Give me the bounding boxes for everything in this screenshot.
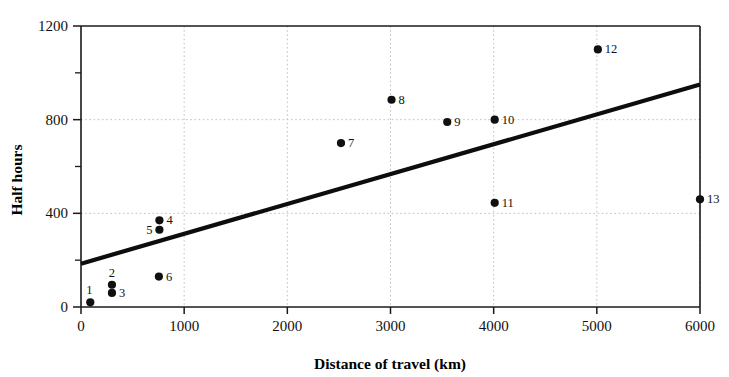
data-point: 5: [146, 223, 163, 237]
data-point-label: 5: [146, 223, 152, 237]
data-point-marker: [337, 139, 345, 147]
data-point: 12: [594, 42, 618, 56]
x-tick-label: 1000: [169, 318, 199, 334]
data-point-marker: [696, 195, 704, 203]
data-point-marker: [594, 45, 602, 53]
data-point-marker: [108, 289, 116, 297]
x-tick-label: 4000: [479, 318, 509, 334]
y-tick-label: 800: [46, 112, 69, 128]
data-point-marker: [86, 298, 94, 306]
y-axis-title: Half hours: [8, 144, 25, 215]
data-points: 12345678910111213: [86, 42, 719, 306]
data-point-marker: [443, 118, 451, 126]
data-point: 10: [491, 113, 515, 127]
x-tick-label: 2000: [272, 318, 302, 334]
y-tick-label: 400: [46, 205, 69, 221]
scatter-chart: 010002000300040005000600004008001200 123…: [0, 0, 729, 377]
data-point-label: 8: [399, 93, 405, 107]
data-point: 8: [387, 93, 404, 107]
data-point-marker: [491, 116, 499, 124]
y-tick-label: 1200: [38, 18, 68, 34]
data-point: 4: [155, 213, 173, 227]
data-point: 9: [443, 115, 460, 129]
data-point-label: 3: [119, 286, 125, 300]
x-tick-label: 6000: [685, 318, 715, 334]
plot-area: 010002000300040005000600004008001200 123…: [0, 0, 729, 377]
data-point: 2: [108, 266, 116, 289]
x-axis-title: Distance of travel (km): [314, 355, 466, 373]
data-point-label: 12: [605, 42, 618, 56]
data-point: 1: [86, 283, 94, 306]
data-point: 7: [337, 136, 354, 150]
data-point-label: 9: [454, 115, 460, 129]
data-point-marker: [155, 226, 163, 234]
data-point-label: 2: [109, 266, 115, 280]
data-point-marker: [155, 272, 163, 280]
grid-lines: [81, 26, 700, 307]
data-point-label: 6: [166, 270, 172, 284]
data-point-marker: [108, 281, 116, 289]
data-point-marker: [155, 216, 163, 224]
x-tick-label: 0: [77, 318, 85, 334]
data-point-marker: [491, 199, 499, 207]
data-point-label: 1: [86, 283, 92, 297]
y-tick-label: 0: [61, 299, 69, 315]
data-point-label: 7: [348, 136, 354, 150]
x-tick-label: 3000: [376, 318, 406, 334]
data-point-label: 11: [502, 196, 514, 210]
data-point-marker: [387, 96, 395, 104]
data-point-label: 4: [166, 213, 173, 227]
data-point-label: 10: [502, 113, 515, 127]
data-point: 6: [155, 270, 172, 284]
data-point-label: 13: [707, 192, 720, 206]
x-tick-label: 5000: [582, 318, 612, 334]
